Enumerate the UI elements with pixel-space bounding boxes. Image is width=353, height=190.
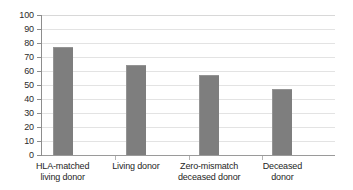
bar-2 bbox=[126, 65, 146, 155]
gridline-100 bbox=[42, 15, 335, 16]
gridline-60 bbox=[42, 71, 335, 72]
y-tick-mark-20 bbox=[37, 127, 41, 128]
x-tick-mark-1 bbox=[115, 156, 116, 160]
x-tick-mark-3 bbox=[262, 156, 263, 160]
y-tick-label-60: 60 bbox=[4, 67, 34, 76]
y-tick-label-10: 10 bbox=[4, 137, 34, 146]
y-tick-label-50: 50 bbox=[4, 81, 34, 90]
gridline-80 bbox=[42, 43, 335, 44]
gridline-70 bbox=[42, 57, 335, 58]
x-tick-mark-2 bbox=[189, 156, 190, 160]
y-tick-label-0: 0 bbox=[4, 151, 34, 160]
y-tick-mark-30 bbox=[37, 113, 41, 114]
x-axis-label-line2: living donor bbox=[19, 172, 106, 183]
y-tick-label-100: 100 bbox=[4, 11, 34, 20]
y-tick-mark-0 bbox=[37, 155, 41, 156]
y-tick-label-80: 80 bbox=[4, 39, 34, 48]
y-tick-label-70: 70 bbox=[4, 53, 34, 62]
bar-1 bbox=[53, 47, 73, 155]
x-axis-label-line1: HLA-matched bbox=[36, 161, 89, 171]
bar-3 bbox=[199, 75, 219, 155]
x-axis-label-line1: Deceased bbox=[263, 161, 302, 171]
gridline-90 bbox=[42, 29, 335, 30]
y-tick-mark-60 bbox=[37, 71, 41, 72]
y-tick-mark-10 bbox=[37, 141, 41, 142]
x-axis-label-4: Deceaseddonor bbox=[239, 161, 326, 183]
x-axis-label-line2: donor bbox=[239, 172, 326, 183]
y-tick-label-90: 90 bbox=[4, 25, 34, 34]
bar-4 bbox=[272, 89, 292, 155]
y-tick-label-30: 30 bbox=[4, 109, 34, 118]
gridline-50 bbox=[42, 85, 335, 86]
x-axis-label-line1: Living donor bbox=[112, 161, 159, 171]
y-tick-mark-50 bbox=[37, 85, 41, 86]
y-tick-label-40: 40 bbox=[4, 95, 34, 104]
x-axis-label-line1: Zero-mismatch bbox=[180, 161, 238, 171]
y-tick-mark-100 bbox=[37, 15, 41, 16]
y-tick-mark-90 bbox=[37, 29, 41, 30]
bar-chart: 1009080706050403020100 HLA-matchedliving… bbox=[0, 0, 353, 190]
y-tick-label-20: 20 bbox=[4, 123, 34, 132]
y-tick-mark-80 bbox=[37, 43, 41, 44]
y-tick-mark-70 bbox=[37, 57, 41, 58]
plot-area bbox=[42, 15, 335, 155]
y-tick-mark-40 bbox=[37, 99, 41, 100]
